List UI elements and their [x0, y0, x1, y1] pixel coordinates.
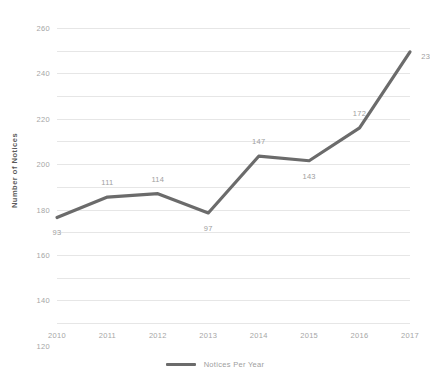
- y-tick-label: 160: [37, 250, 50, 259]
- x-tick-label: 2015: [300, 331, 318, 340]
- plot-area: 020406080100120140160180200220240260 931…: [57, 28, 410, 323]
- x-tick-label: 2013: [199, 331, 217, 340]
- y-tick-label: 220: [37, 114, 50, 123]
- series-line-notices-per-year: [57, 28, 410, 323]
- x-tick-label: 2016: [351, 331, 369, 340]
- x-tick-label: 2011: [99, 331, 116, 340]
- x-tick-label: 2014: [250, 331, 268, 340]
- legend-item-label: Notices Per Year: [204, 360, 265, 369]
- gridline: 0: [57, 323, 410, 324]
- y-tick-label: 120: [37, 341, 50, 350]
- x-tick-label: 2010: [48, 331, 66, 340]
- chart-legend: Notices Per Year: [0, 360, 430, 369]
- legend-line-swatch: [166, 363, 196, 366]
- x-axis-labels: 20102011201220132014201520162017: [57, 331, 410, 345]
- data-point-label: 97: [204, 223, 213, 232]
- data-point-label: 143: [302, 171, 315, 180]
- y-tick-label: 140: [37, 296, 50, 305]
- line-chart: Number of Notices 0204060801001201401601…: [0, 0, 430, 387]
- data-point-label: 93: [53, 228, 62, 237]
- y-axis-title: Number of Notices: [0, 0, 30, 340]
- x-tick-label: 2012: [149, 331, 167, 340]
- y-tick-label: 240: [37, 69, 50, 78]
- data-point-label: 111: [101, 178, 113, 187]
- series-polyline: [57, 52, 410, 218]
- data-point-label: 114: [151, 174, 164, 183]
- data-point-label: 172: [353, 108, 366, 117]
- y-tick-label: 200: [37, 160, 50, 169]
- y-tick-label: 180: [37, 205, 50, 214]
- data-point-label: 147: [252, 137, 265, 146]
- y-axis-title-text: Number of Notices: [11, 132, 20, 207]
- y-tick-label: 260: [37, 24, 50, 33]
- data-point-label: 239: [421, 51, 430, 60]
- x-tick-label: 2017: [401, 331, 419, 340]
